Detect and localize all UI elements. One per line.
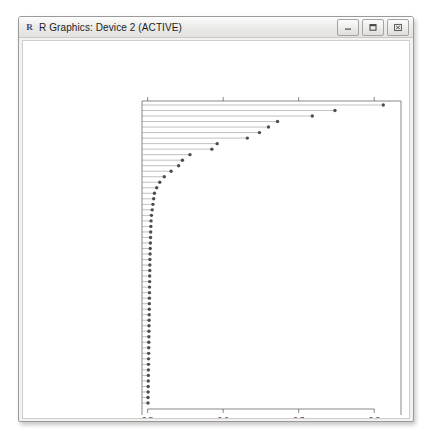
r-graphics-window: R R Graphics: Device 2 (ACTIVE) [18,16,414,422]
r-logo-icon: R [24,22,35,33]
close-icon [393,23,403,32]
graphics-device-canvas[interactable]: ageidlocationshortnessofbreathfrom_wuhan… [22,40,410,419]
window-titlebar[interactable]: R R Graphics: Device 2 (ACTIVE) [19,17,413,38]
x-tick-label: 0.6 [218,415,229,419]
x-axis-tick-labels: 0.50.60.70.8 [23,41,409,418]
dotchart-plot: ageidlocationshortnessofbreathfrom_wuhan… [23,41,409,418]
x-tick-label: 0.7 [293,415,304,419]
maximize-icon [368,23,378,32]
desktop-background: R R Graphics: Device 2 (ACTIVE) [0,0,432,447]
window-controls [337,19,409,36]
minimize-icon [343,23,353,32]
x-tick-label: 0.8 [369,415,380,419]
x-tick-label: 0.5 [142,415,153,419]
maximize-button[interactable] [362,19,384,36]
minimize-button[interactable] [337,19,359,36]
close-button[interactable] [387,19,409,36]
window-title: R Graphics: Device 2 (ACTIVE) [39,22,182,33]
